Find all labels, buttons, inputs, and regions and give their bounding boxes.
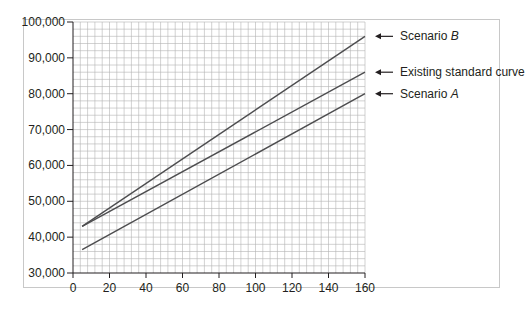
axes: 30,00040,00050,00060,00070,00080,00090,0… (22, 15, 376, 295)
legend-label: Existing standard curve (400, 65, 525, 79)
x-tick-label: 80 (212, 281, 226, 295)
x-tick-label: 40 (139, 281, 153, 295)
series-line (82, 72, 365, 226)
series-line (82, 94, 365, 250)
line-chart: 30,00040,00050,00060,00070,00080,00090,0… (0, 0, 528, 310)
grid (73, 22, 365, 273)
y-tick-label: 80,000 (28, 87, 65, 101)
y-tick-label: 100,000 (22, 15, 66, 29)
x-tick-label: 20 (103, 281, 117, 295)
y-tick-label: 60,000 (28, 158, 65, 172)
x-tick-label: 100 (245, 281, 265, 295)
y-tick-label: 90,000 (28, 51, 65, 65)
x-tick-label: 60 (176, 281, 190, 295)
y-tick-label: 70,000 (28, 123, 65, 137)
arrowhead-icon (375, 33, 381, 39)
arrowhead-icon (375, 91, 381, 97)
x-tick-label: 120 (282, 281, 302, 295)
legend-label: Scenario A (400, 87, 459, 101)
x-tick-label: 0 (70, 281, 77, 295)
y-tick-label: 50,000 (28, 194, 65, 208)
x-tick-label: 140 (318, 281, 338, 295)
y-tick-label: 40,000 (28, 230, 65, 244)
x-tick-label: 160 (355, 281, 375, 295)
legend-annotations: Scenario BExisting standard curveScenari… (375, 29, 525, 100)
legend-label: Scenario B (400, 29, 459, 43)
y-tick-label: 30,000 (28, 266, 65, 280)
arrowhead-icon (375, 69, 381, 75)
series-lines (82, 36, 365, 249)
